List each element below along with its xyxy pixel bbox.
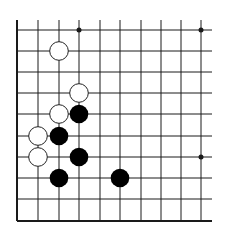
white-stone [50, 42, 69, 61]
black-stone [111, 169, 130, 188]
white-stone [29, 127, 48, 146]
star-point-icon [199, 155, 204, 160]
white-stone [70, 84, 89, 103]
go-board [0, 0, 228, 236]
board-grid [17, 20, 212, 221]
black-stone [70, 148, 89, 167]
black-stone [50, 169, 69, 188]
star-point-icon [77, 28, 82, 33]
star-point-icon [199, 28, 204, 33]
black-stone [70, 105, 89, 124]
white-stone [29, 148, 48, 167]
black-stone [50, 127, 69, 146]
white-stone [50, 105, 69, 124]
